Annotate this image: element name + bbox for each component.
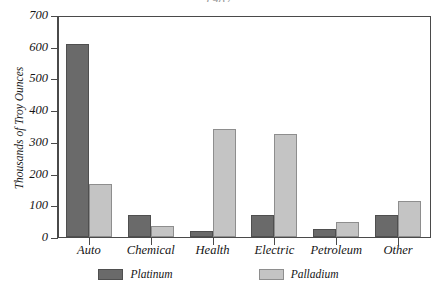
x-axis-tick-label: Health: [196, 243, 230, 258]
y-axis-tick: [51, 16, 58, 17]
legend-label-palladium: Palladium: [291, 268, 339, 280]
y-axis-tick-label: 300: [8, 135, 48, 150]
legend-swatch-platinum: [98, 269, 123, 280]
y-axis-tick: [51, 48, 58, 49]
legend-swatch-palladium: [259, 269, 284, 280]
y-axis-tick-label: 100: [8, 198, 48, 213]
bar-platinum-auto: [66, 44, 89, 237]
bar-palladium-electric: [274, 134, 297, 237]
y-axis-tick-label: 400: [8, 103, 48, 118]
x-axis-tick-label: Chemical: [127, 243, 175, 258]
y-axis-tick-label: 0: [8, 230, 48, 245]
bar-palladium-auto: [89, 184, 112, 237]
y-axis-tick-label: 500: [8, 71, 48, 86]
bar-palladium-other: [398, 201, 421, 237]
y-axis-tick: [51, 111, 58, 112]
bar-platinum-electric: [251, 215, 274, 237]
bar-platinum-petroleum: [313, 229, 336, 237]
bar-platinum-health: [190, 231, 213, 237]
x-axis-tick-label: Electric: [255, 243, 295, 258]
legend-label-platinum: Platinum: [130, 268, 172, 280]
bar-palladium-health: [213, 129, 236, 237]
y-axis-tick: [51, 206, 58, 207]
y-axis-tick: [51, 79, 58, 80]
y-axis-tick: [51, 175, 58, 176]
x-axis-tick-label: Other: [383, 243, 412, 258]
y-axis-tick-label: 600: [8, 40, 48, 55]
chart-title: 1987: [0, 0, 437, 2]
bar-chart: 1987 Thousands of Troy Ounces 0100200300…: [0, 0, 437, 289]
y-axis-tick: [51, 238, 58, 239]
bar-platinum-chemical: [128, 215, 151, 237]
chart-legend: PlatinumPalladium: [0, 264, 437, 284]
legend-item-palladium: Palladium: [259, 268, 339, 280]
bars-layer: [58, 16, 429, 237]
bar-platinum-other: [375, 215, 398, 237]
x-axis-tick-label: Petroleum: [310, 243, 362, 258]
y-axis-tick-label: 700: [8, 8, 48, 23]
bar-palladium-chemical: [151, 226, 174, 237]
bar-palladium-petroleum: [336, 222, 359, 237]
y-axis-tick-label: 200: [8, 167, 48, 182]
legend-item-platinum: Platinum: [98, 268, 172, 280]
y-axis-tick: [51, 143, 58, 144]
x-axis-tick-label: Auto: [77, 243, 101, 258]
